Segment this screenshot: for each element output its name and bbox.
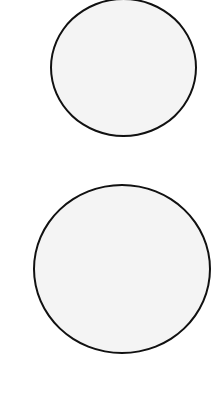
bottom-circle [33, 184, 211, 354]
drawing-canvas [0, 0, 222, 400]
top-circle [50, 0, 197, 137]
